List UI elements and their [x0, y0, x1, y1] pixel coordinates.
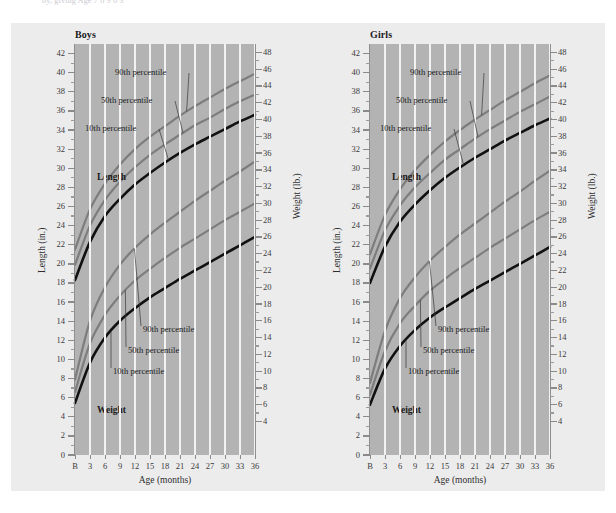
x-axis-tick	[195, 455, 196, 459]
x-axis-tick	[225, 455, 226, 459]
axis-tick-minor	[366, 387, 370, 388]
axis-tick-minor	[255, 144, 259, 145]
axis-tick-minor	[550, 245, 554, 246]
growth-chart-page: by, giving Age 7 6 9 6 3 Boys Length Wei…	[0, 0, 616, 513]
axis-tick-label: 6	[61, 393, 65, 402]
charts-card: Boys Length Weight 90th percentile 50th …	[11, 23, 605, 491]
gridline-vertical	[209, 44, 211, 455]
x-axis-tick	[135, 455, 136, 459]
axis-tick-label: 26	[57, 202, 66, 211]
axis-tick-minor	[71, 254, 75, 255]
axis-tick-label: 38	[558, 132, 567, 141]
axis-tick-minor	[255, 194, 259, 195]
axis-tick-label: 4	[558, 417, 562, 426]
callout-weight-10-boys: 10th percentile	[113, 366, 164, 376]
axis-tick-major	[550, 85, 557, 86]
axis-tick-label: 24	[57, 221, 66, 230]
axis-tick-minor	[366, 445, 370, 446]
x-axis-tick	[75, 455, 76, 459]
axis-tick-minor	[366, 196, 370, 197]
axis-tick-minor	[255, 312, 259, 313]
x-axis-tick-label: 3	[383, 461, 387, 471]
axis-tick-minor	[71, 426, 75, 427]
axis-tick-label: 30	[263, 199, 272, 208]
y-axis-title-right-girls: Weight (lb.)	[587, 173, 597, 219]
axis-tick-label: 6	[356, 393, 360, 402]
axis-tick-minor	[550, 379, 554, 380]
axis-tick-minor	[366, 215, 370, 216]
series-group-label-weight-boys: Weight	[97, 405, 126, 415]
gridline-vertical	[194, 44, 196, 455]
axis-tick-label: 32	[558, 182, 567, 191]
axis-tick-label: 16	[558, 316, 567, 325]
x-axis-tick-label: 15	[146, 461, 155, 471]
axis-tick-minor	[550, 144, 554, 145]
axis-tick-label: 10	[263, 367, 272, 376]
x-axis-tick	[180, 455, 181, 459]
gridline-vertical	[459, 44, 461, 455]
axis-tick-major	[255, 337, 262, 338]
axis-tick-label: 2	[61, 431, 65, 440]
axis-tick-label: 42	[352, 49, 361, 58]
callout-weight-90-girls: 90th percentile	[438, 324, 489, 334]
axis-tick-major	[363, 72, 370, 73]
axis-tick-major	[550, 152, 557, 153]
axis-tick-minor	[550, 77, 554, 78]
panel-title-boys: Boys	[75, 29, 96, 40]
gridline-vertical	[519, 44, 521, 455]
axis-tick-label: 4	[356, 412, 360, 421]
axis-tick-label: 40	[352, 68, 361, 77]
axis-tick-major	[255, 203, 262, 204]
panel-title-girls: Girls	[370, 29, 392, 40]
x-axis-tick	[255, 455, 256, 459]
axis-tick-minor	[71, 101, 75, 102]
plot-area-girls: Length Weight	[370, 44, 550, 455]
axis-tick-major	[255, 169, 262, 170]
axis-tick-major	[363, 397, 370, 398]
axis-tick-label: 8	[61, 374, 65, 383]
x-axis-tick	[415, 455, 416, 459]
axis-tick-minor	[255, 329, 259, 330]
axis-tick-label: 24	[352, 221, 361, 230]
axis-tick-minor	[71, 292, 75, 293]
axis-tick-minor	[550, 211, 554, 212]
x-axis-tick-label: 12	[426, 461, 435, 471]
axis-tick-label: 46	[558, 65, 567, 74]
axis-line	[369, 44, 370, 455]
axis-tick-label: 22	[263, 266, 272, 275]
axis-tick-minor	[366, 177, 370, 178]
x-axis-tick-label: 27	[501, 461, 510, 471]
axis-tick-major	[363, 340, 370, 341]
axis-tick-minor	[366, 254, 370, 255]
axis-tick-major	[68, 282, 75, 283]
axis-tick-major	[550, 270, 557, 271]
x-axis-tick	[475, 455, 476, 459]
axis-tick-label: 34	[558, 165, 567, 174]
series-group-label-length-boys: Length	[97, 172, 126, 182]
x-axis-tick-label: B	[72, 461, 78, 471]
axis-tick-label: 44	[263, 81, 272, 90]
axis-tick-label: 22	[558, 266, 567, 275]
axis-tick-minor	[71, 63, 75, 64]
axis-tick-minor	[255, 362, 259, 363]
axis-tick-minor	[255, 396, 259, 397]
series-group-label-length-girls: Length	[392, 172, 421, 182]
axis-tick-minor	[366, 139, 370, 140]
axis-tick-major	[255, 186, 262, 187]
axis-tick-major	[255, 85, 262, 86]
axis-tick-label: 0	[356, 451, 360, 460]
x-axis-tick-label: 9	[413, 461, 417, 471]
axis-tick-minor	[366, 273, 370, 274]
axis-tick-major	[68, 53, 75, 54]
x-axis-tick-label: 9	[118, 461, 122, 471]
axis-tick-minor	[255, 412, 259, 413]
axis-tick-minor	[71, 196, 75, 197]
x-axis-title-boys: Age (months)	[75, 475, 255, 485]
axis-tick-label: 4	[263, 417, 267, 426]
x-axis-tick-label: 12	[131, 461, 140, 471]
axis-tick-major	[255, 236, 262, 237]
axis-tick-major	[68, 263, 75, 264]
axis-tick-label: 12	[57, 336, 66, 345]
axis-tick-major	[255, 303, 262, 304]
gridline-vertical	[474, 44, 476, 455]
